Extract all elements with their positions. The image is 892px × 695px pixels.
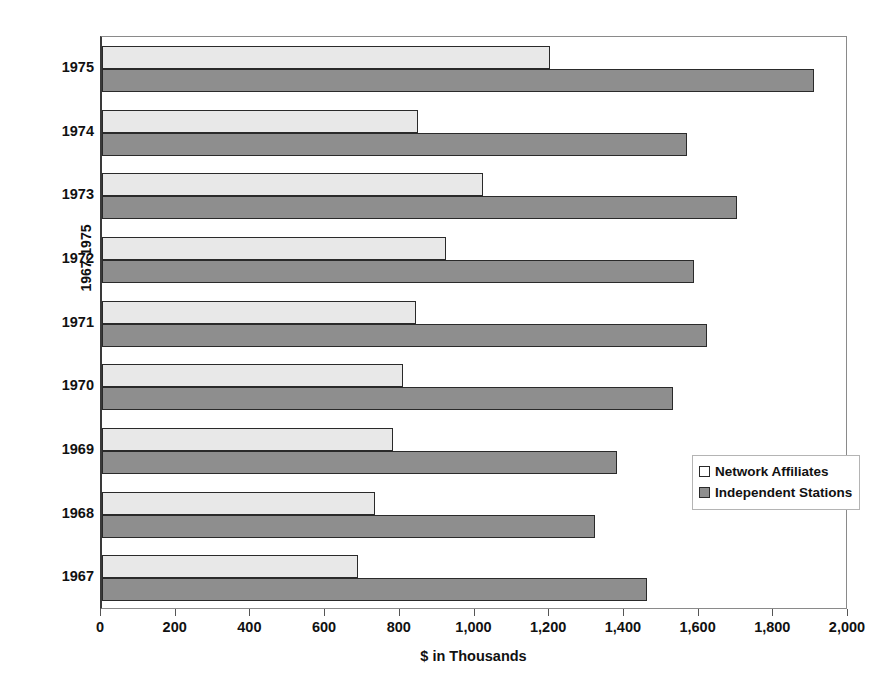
bar[interactable] xyxy=(102,173,483,196)
bar[interactable] xyxy=(102,133,687,156)
x-axis-tick-label: 400 xyxy=(214,619,284,635)
legend-swatch-independent-stations xyxy=(699,487,710,498)
x-axis-tick-label: 1,200 xyxy=(513,619,583,635)
y-axis-tick-label: 1970 xyxy=(6,377,94,393)
bar[interactable] xyxy=(102,301,416,324)
plot-area xyxy=(102,37,846,608)
x-axis-tick-label: 800 xyxy=(364,619,434,635)
x-axis-tick-mark xyxy=(324,609,325,616)
bar-group xyxy=(102,364,846,410)
x-axis-tick-label: 2,000 xyxy=(812,619,882,635)
x-axis-tick-label: 1,000 xyxy=(439,619,509,635)
bar[interactable] xyxy=(102,555,358,578)
x-axis-tick-mark xyxy=(698,609,699,616)
bar[interactable] xyxy=(102,196,737,219)
y-axis-tick-label: 1974 xyxy=(6,123,94,139)
bar[interactable] xyxy=(102,451,617,474)
bar-group xyxy=(102,46,846,92)
bar-chart: 1967-1975 197519741973197219711970196919… xyxy=(0,0,892,695)
chart-legend: Network Affiliates Independent Stations xyxy=(692,455,860,510)
bar[interactable] xyxy=(102,364,403,387)
x-axis-tick-label: 0 xyxy=(65,619,135,635)
y-axis-tick-label: 1973 xyxy=(6,186,94,202)
y-axis-tick-label: 1968 xyxy=(6,505,94,521)
x-axis-tick-mark xyxy=(399,609,400,616)
plot-frame xyxy=(100,36,847,609)
y-axis-tick-labels: 197519741973197219711970196919681967 xyxy=(0,36,94,609)
x-axis-tick-label: 1,800 xyxy=(737,619,807,635)
bar[interactable] xyxy=(102,237,446,260)
bar[interactable] xyxy=(102,428,393,451)
x-axis-tick-mark xyxy=(175,609,176,616)
y-axis-tick-label: 1969 xyxy=(6,441,94,457)
bar[interactable] xyxy=(102,46,550,69)
x-axis-tick-mark xyxy=(474,609,475,616)
x-axis-tick-mark xyxy=(548,609,549,616)
bar-group xyxy=(102,301,846,347)
legend-swatch-network-affiliates xyxy=(699,466,710,477)
x-axis-tick-label: 1,400 xyxy=(588,619,658,635)
y-axis-tick-label: 1967 xyxy=(6,568,94,584)
bar[interactable] xyxy=(102,69,814,92)
y-axis-tick-label: 1975 xyxy=(6,59,94,75)
bar[interactable] xyxy=(102,324,707,347)
x-axis-tick-mark xyxy=(847,609,848,616)
y-axis-tick-label: 1972 xyxy=(6,250,94,266)
bar[interactable] xyxy=(102,260,694,283)
x-axis-title: $ in Thousands xyxy=(100,648,847,664)
bar-group xyxy=(102,555,846,601)
x-axis-tick-mark xyxy=(772,609,773,616)
x-axis-tick-mark xyxy=(623,609,624,616)
bar[interactable] xyxy=(102,492,375,515)
x-axis-tick-label: 1,600 xyxy=(663,619,733,635)
x-axis-tick-label: 600 xyxy=(289,619,359,635)
legend-label: Network Affiliates xyxy=(715,465,829,479)
legend-item: Network Affiliates xyxy=(699,461,852,482)
bar-group xyxy=(102,237,846,283)
x-axis-tick-label: 200 xyxy=(140,619,210,635)
bar-group xyxy=(102,173,846,219)
bar-group xyxy=(102,110,846,156)
bar[interactable] xyxy=(102,110,418,133)
y-axis-tick-label: 1971 xyxy=(6,314,94,330)
x-axis-tick-mark xyxy=(249,609,250,616)
bar[interactable] xyxy=(102,387,673,410)
x-axis-tick-mark xyxy=(100,609,101,616)
bar[interactable] xyxy=(102,515,595,538)
legend-label: Independent Stations xyxy=(715,486,852,500)
bar[interactable] xyxy=(102,578,647,601)
legend-item: Independent Stations xyxy=(699,482,852,503)
